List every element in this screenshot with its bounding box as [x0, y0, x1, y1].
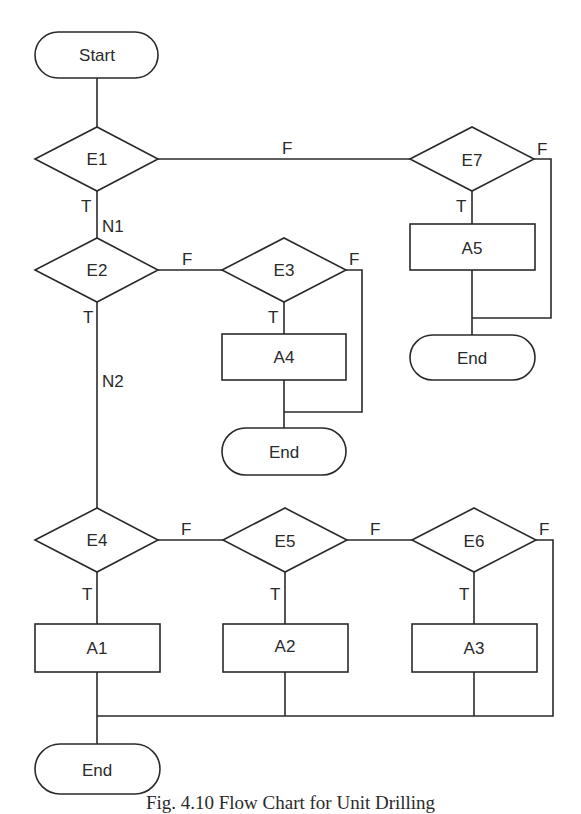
- a3-label: A3: [464, 639, 485, 658]
- e7-true-label: T: [456, 197, 466, 216]
- e3-false-label: F: [349, 250, 359, 269]
- a2-label: A2: [275, 637, 296, 656]
- n2-label: N2: [102, 372, 124, 391]
- e2-false-label: F: [182, 250, 192, 269]
- a1-label: A1: [87, 639, 108, 658]
- end-main-label: End: [82, 761, 112, 780]
- end-a5-label: End: [457, 349, 487, 368]
- e5-false-label: F: [370, 520, 380, 539]
- a5-label: A5: [462, 239, 483, 258]
- n1-label: N1: [102, 217, 124, 236]
- e4-true-label: T: [82, 585, 92, 604]
- a4-label: A4: [274, 348, 295, 367]
- e4-label: E4: [87, 531, 108, 550]
- connectors: [97, 78, 553, 744]
- e1-label: E1: [87, 150, 108, 169]
- e2-label: E2: [87, 261, 108, 280]
- figure-caption: Fig. 4.10 Flow Chart for Unit Drilling: [0, 792, 581, 814]
- e7-false-label: F: [537, 140, 547, 159]
- e5-true-label: T: [270, 585, 280, 604]
- e7-label: E7: [462, 151, 483, 170]
- end-a4-label: End: [269, 443, 299, 462]
- e3-true-label: T: [268, 308, 278, 327]
- e6-false-label: F: [539, 520, 549, 539]
- e2-true-label: T: [83, 308, 93, 327]
- e1-true-label: T: [81, 197, 91, 216]
- e1-false-label: F: [282, 139, 292, 158]
- e6-label: E6: [464, 532, 485, 551]
- e4-false-label: F: [181, 520, 191, 539]
- start-label: Start: [79, 46, 115, 65]
- e5-label: E5: [275, 532, 296, 551]
- e6-true-label: T: [459, 585, 469, 604]
- e3-label: E3: [274, 261, 295, 280]
